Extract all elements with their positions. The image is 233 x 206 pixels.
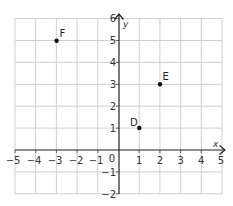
y-tick-label: 5 xyxy=(110,35,116,46)
origin-label: 0 xyxy=(109,153,115,164)
point-label: D xyxy=(130,117,138,128)
y-tick-label: −1 xyxy=(101,167,116,178)
x-tick-label: 2 xyxy=(157,155,163,166)
x-tick-label: −4 xyxy=(27,155,42,166)
x-tick-label: 1 xyxy=(136,155,142,166)
y-tick-label: −2 xyxy=(101,189,116,200)
y-tick-label: 1 xyxy=(110,123,116,134)
point-marker xyxy=(158,82,162,86)
x-axis xyxy=(15,146,225,155)
y-axis-label: y xyxy=(122,19,129,29)
y-tick-label: 2 xyxy=(110,101,116,112)
x-axis-label: x xyxy=(212,139,219,149)
x-tick-label: 4 xyxy=(198,155,204,166)
point-marker xyxy=(137,126,141,130)
x-tick-label: −5 xyxy=(6,155,21,166)
y-tick-label: 4 xyxy=(110,57,116,68)
coordinate-grid-chart: −5 −4 −3 −2 −1 1 2 3 4 5 0 6 5 4 3 2 1 −… xyxy=(0,0,233,206)
y-tick-label: 3 xyxy=(110,79,116,90)
point-marker xyxy=(54,39,58,43)
x-tick-label: −2 xyxy=(69,155,84,166)
x-tick-label: −1 xyxy=(89,155,104,166)
y-tick-label: 6 xyxy=(110,13,116,24)
point-label: E xyxy=(163,71,169,82)
x-tick-label: 5 xyxy=(218,155,224,166)
x-tick-label: −3 xyxy=(48,155,63,166)
point-label: F xyxy=(60,28,66,39)
x-tick-label: 3 xyxy=(177,155,183,166)
